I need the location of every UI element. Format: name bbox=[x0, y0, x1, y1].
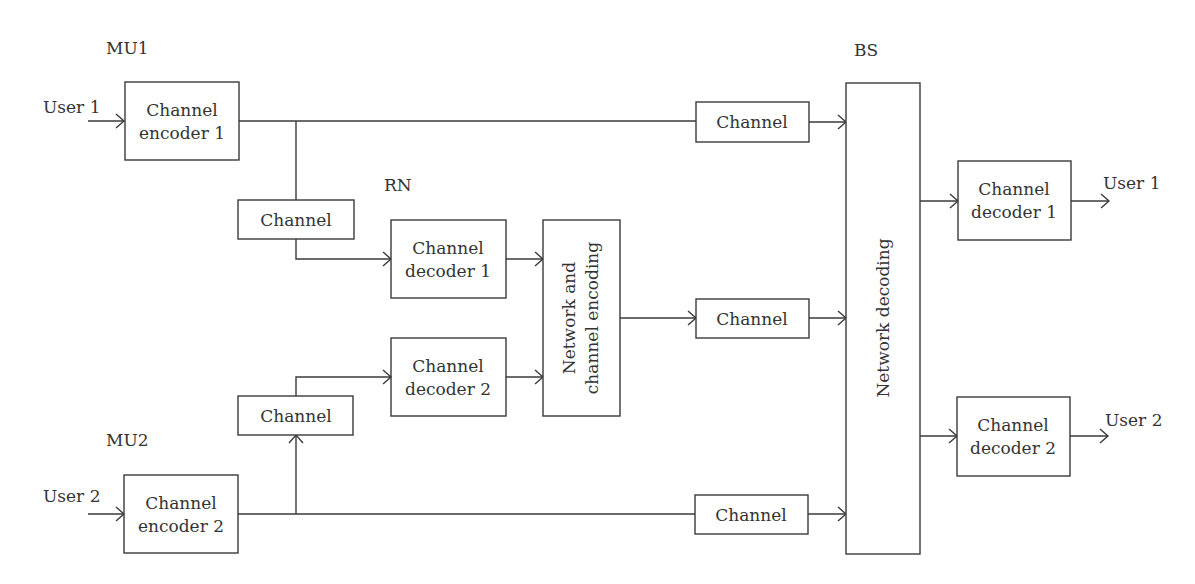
bs-channel-decoder-1-line1: Channel bbox=[978, 179, 1050, 199]
rn-network-to-channel-arrow bbox=[620, 311, 696, 325]
channel-mu1-bs-block: Channel bbox=[696, 102, 809, 142]
encoder2-branch-arrow bbox=[289, 435, 303, 514]
rn-channel2-to-decoder2-arrow bbox=[296, 370, 391, 396]
rn-channel-decoder-2-line2: decoder 2 bbox=[405, 379, 491, 399]
output-user2-label: User 2 bbox=[1105, 410, 1162, 430]
channel-encoder-1-block: Channel encoder 1 bbox=[125, 82, 239, 160]
channel-mu1-bs-arrow bbox=[809, 115, 846, 129]
channel-encoder-2-line1: Channel bbox=[145, 493, 217, 513]
rn-channel1-to-decoder1-arrow bbox=[296, 239, 391, 266]
channel-mu2-rn-block: Channel bbox=[238, 396, 353, 435]
bs-channel-decoder-2-line1: Channel bbox=[977, 415, 1049, 435]
rn-channel-decoder-1-line2: decoder 1 bbox=[405, 261, 491, 281]
input-user1-label: User 1 bbox=[43, 97, 100, 117]
channel-encoder-1-line1: Channel bbox=[146, 100, 218, 120]
bs-channel-decoder-2-line2: decoder 2 bbox=[970, 438, 1056, 458]
rn-network-encoding-line2: channel encoding bbox=[582, 242, 602, 394]
rn-channel-decoder-1-line1: Channel bbox=[412, 238, 484, 258]
channel-encoder-2-line2: encoder 2 bbox=[138, 516, 224, 536]
rn-channel-decoder-1-block: Channel decoder 1 bbox=[391, 220, 506, 298]
channel-encoder-1-line2: encoder 1 bbox=[139, 123, 225, 143]
rn-decoder1-to-network-arrow bbox=[506, 252, 543, 266]
output-user2-arrow bbox=[1070, 429, 1108, 443]
bs-network-decoding-label: Network decoding bbox=[873, 238, 893, 397]
channel-mu1-rn-block: Channel bbox=[238, 200, 354, 239]
bs-network-decoding-block: Network decoding bbox=[846, 83, 920, 554]
bs-channel-decoder-2-block: Channel decoder 2 bbox=[957, 397, 1070, 476]
bs-network-to-decoder2-arrow bbox=[920, 429, 957, 443]
channel-mu2-rn-label: Channel bbox=[260, 406, 332, 426]
rn-channel-decoder-2-block: Channel decoder 2 bbox=[391, 338, 506, 416]
rn-network-channel-encoding-block: Network and channel encoding bbox=[543, 220, 620, 416]
channel-mu2-bs-arrow bbox=[808, 507, 846, 521]
bs-channel-decoder-1-line2: decoder 1 bbox=[971, 202, 1057, 222]
mu2-label: MU2 bbox=[106, 430, 149, 450]
channel-rn-bs-label: Channel bbox=[716, 309, 788, 329]
rn-decoder2-to-network-arrow bbox=[506, 370, 543, 384]
channel-rn-bs-block: Channel bbox=[696, 299, 809, 338]
output-user1-label: User 1 bbox=[1103, 173, 1160, 193]
rn-label: RN bbox=[384, 175, 412, 195]
channel-rn-bs-arrow bbox=[809, 311, 846, 325]
input-user2-label: User 2 bbox=[43, 486, 100, 506]
rn-network-encoding-line1: Network and bbox=[559, 262, 579, 374]
bs-label: BS bbox=[854, 40, 878, 60]
bs-channel-decoder-1-block: Channel decoder 1 bbox=[958, 161, 1071, 240]
mu1-label: MU1 bbox=[106, 38, 149, 58]
channel-encoder-2-block: Channel encoder 2 bbox=[124, 475, 238, 553]
input-user2-arrow bbox=[88, 507, 124, 521]
channel-mu2-bs-block: Channel bbox=[695, 495, 808, 534]
channel-mu2-bs-label: Channel bbox=[715, 505, 787, 525]
rn-channel-decoder-2-line1: Channel bbox=[412, 356, 484, 376]
output-user1-arrow bbox=[1071, 194, 1109, 208]
bs-network-to-decoder1-arrow bbox=[920, 194, 958, 208]
channel-mu1-bs-label: Channel bbox=[716, 112, 788, 132]
relay-network-coding-diagram: MU1 MU2 RN BS User 1 Channel encoder 1 C… bbox=[0, 0, 1195, 584]
channel-mu1-rn-label: Channel bbox=[260, 210, 332, 230]
